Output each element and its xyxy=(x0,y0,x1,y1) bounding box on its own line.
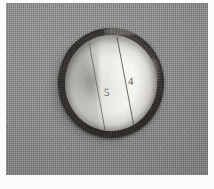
specimen-cut-face: 5 4 xyxy=(65,35,157,131)
specimen: 5 4 xyxy=(56,26,166,142)
score-line xyxy=(89,42,105,130)
photograph-plate: 5 4 xyxy=(6,3,208,175)
score-lines xyxy=(65,35,157,131)
surface-grain xyxy=(65,35,157,131)
image-frame: 5 4 xyxy=(0,0,214,189)
segment-label-5: 5 xyxy=(104,87,110,98)
segment-label-4: 4 xyxy=(128,76,134,87)
face-highlight xyxy=(65,35,157,131)
